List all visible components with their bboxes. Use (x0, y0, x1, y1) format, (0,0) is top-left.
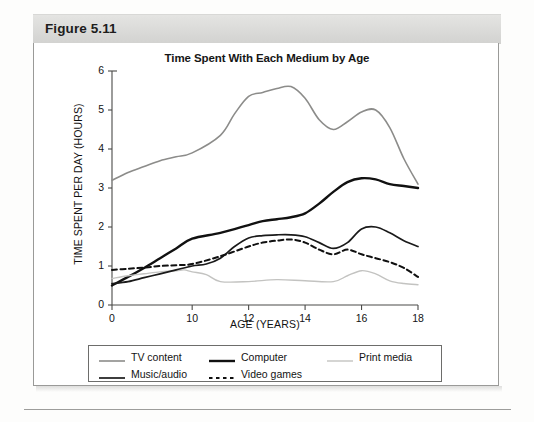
legend-item-label: TV content (131, 351, 182, 363)
legend-item-label: Computer (241, 351, 287, 363)
line-swatch-light-gray-icon (327, 352, 353, 362)
x-tick-label: 0 (97, 312, 127, 324)
legend-item[interactable]: TV content (99, 348, 182, 365)
line-swatch-dashed-icon (209, 369, 235, 379)
line-swatch-gray-icon (99, 352, 125, 362)
y-tick-label: 1 (82, 259, 104, 271)
y-tick-label: 6 (82, 64, 104, 76)
legend-item-label: Print media (359, 351, 412, 363)
axes-group (108, 71, 418, 310)
series-line-tv-content (112, 86, 418, 184)
x-tick-label: 10 (177, 312, 207, 324)
line-swatch-black-icon (99, 369, 125, 379)
x-tick-label: 18 (403, 312, 433, 324)
series-line-computer (112, 178, 418, 285)
legend-item[interactable]: Computer (209, 348, 287, 365)
y-tick-label: 0 (82, 298, 104, 310)
x-tick-label: 12 (234, 312, 264, 324)
line-swatch-black-thick-icon (209, 352, 235, 362)
x-tick-label: 16 (347, 312, 377, 324)
y-tick-label: 2 (82, 220, 104, 232)
legend-item[interactable]: Music/audio (99, 365, 187, 382)
legend-item-label: Video games (241, 368, 302, 380)
series-group (112, 86, 418, 285)
y-tick-label: 5 (82, 103, 104, 115)
series-line-print-media (112, 270, 418, 285)
legend-item[interactable]: Print media (327, 348, 412, 365)
x-tick-label: 14 (290, 312, 320, 324)
y-tick-label: 4 (82, 142, 104, 154)
legend-row: Music/audioVideo games (89, 365, 441, 382)
legend-row: TV contentComputerPrint media (89, 348, 441, 365)
legend-item[interactable]: Video games (209, 365, 302, 382)
legend-item-label: Music/audio (131, 368, 187, 380)
y-tick-label: 3 (82, 181, 104, 193)
chart-legend: TV contentComputerPrint media Music/audi… (88, 345, 442, 382)
series-line-music-audio (112, 227, 418, 284)
